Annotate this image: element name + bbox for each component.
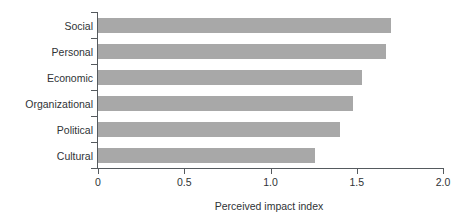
y-axis-tick (91, 12, 97, 13)
x-tick-label: 0.5 (154, 176, 214, 188)
category-label: Economic (0, 72, 93, 84)
category-label: Social (0, 20, 93, 32)
x-tick-label: 0 (68, 176, 128, 188)
bar (98, 122, 340, 137)
x-axis-tick (443, 169, 444, 174)
y-axis-tick (91, 168, 97, 169)
y-axis-tick (91, 142, 97, 143)
y-axis-tick (91, 90, 97, 91)
x-tick-label: 1.0 (241, 176, 301, 188)
bar (98, 96, 353, 111)
plot-area (98, 12, 443, 168)
x-axis-tick (357, 169, 358, 174)
bar-chart: SocialPersonalEconomicOrganizationalPoli… (0, 0, 472, 224)
x-axis-title: Perceived impact index (0, 200, 472, 213)
y-axis-tick (91, 116, 97, 117)
y-axis-tick (91, 64, 97, 65)
x-axis-tick (184, 169, 185, 174)
bar (98, 18, 391, 33)
category-label: Personal (0, 46, 93, 58)
x-tick-label: 1.5 (327, 176, 387, 188)
bar (98, 44, 386, 59)
y-axis-tick (91, 38, 97, 39)
category-label: Political (0, 124, 93, 136)
x-axis-tick (271, 169, 272, 174)
category-label: Cultural (0, 150, 93, 162)
x-axis-tick (98, 169, 99, 174)
bar (98, 148, 315, 163)
x-tick-label: 2.0 (413, 176, 472, 188)
bar (98, 70, 362, 85)
category-label: Organizational (0, 98, 93, 110)
